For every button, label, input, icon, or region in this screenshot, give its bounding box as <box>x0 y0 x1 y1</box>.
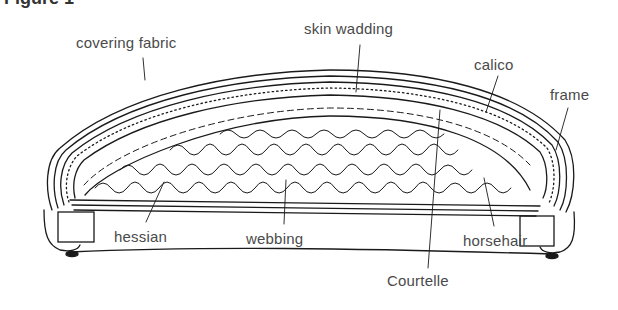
diagram-canvas: Figure 1 <box>0 0 618 310</box>
leader-calico <box>486 76 498 112</box>
base-line <box>70 248 552 254</box>
label-horsehair: horsehair <box>463 232 527 249</box>
label-webbing: webbing <box>246 230 303 247</box>
label-courtelle: Courtelle <box>387 272 449 289</box>
leader-covering-fabric <box>143 58 145 80</box>
leader-skin-wadding <box>356 45 360 92</box>
label-skin-wadding: skin wadding <box>304 20 393 37</box>
frame-left <box>58 212 94 242</box>
covering-fabric-outline <box>47 70 573 212</box>
hessian-line <box>70 200 540 206</box>
label-frame: frame <box>550 86 589 103</box>
label-hessian: hessian <box>114 228 167 245</box>
webbing-line <box>74 210 536 216</box>
leader-courtelle <box>428 110 440 268</box>
leader-hessian <box>146 182 164 222</box>
label-covering-fabric: covering fabric <box>76 34 177 51</box>
leader-webbing <box>284 180 286 224</box>
leader-frame <box>556 108 568 150</box>
label-calico: calico <box>474 56 514 73</box>
